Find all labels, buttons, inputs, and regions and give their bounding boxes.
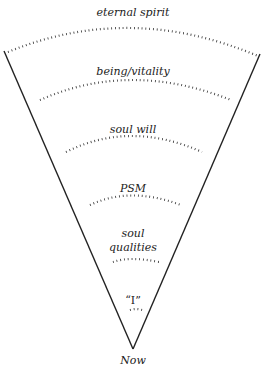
- label-now: Now: [119, 354, 146, 367]
- label-soul-will: soul will: [110, 123, 157, 136]
- label-eternal-spirit: eternal spirit: [97, 6, 170, 19]
- arc-psm: [90, 196, 181, 206]
- label-soul: soul: [122, 227, 145, 240]
- arc-being-vitality: [40, 80, 231, 100]
- arc-eternal-spirit: [8, 28, 258, 56]
- label-being-vitality: being/vitality: [96, 65, 170, 78]
- label-psm: PSM: [119, 182, 147, 195]
- label-i: “I”: [125, 294, 141, 307]
- funnel-diagram: eternal spirit being/vitality soul will …: [0, 0, 261, 374]
- funnel-right-edge: [133, 54, 260, 349]
- label-qualities: qualities: [109, 241, 157, 254]
- arc-soul-qualities: [113, 259, 159, 262]
- funnel-left-edge: [4, 51, 133, 349]
- arc-soul-will: [66, 136, 202, 152]
- arc-i: [130, 309, 142, 310]
